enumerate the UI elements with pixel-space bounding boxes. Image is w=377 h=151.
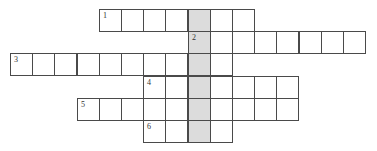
crossword-cell[interactable]: 1	[99, 9, 122, 32]
crossword-cell[interactable]	[99, 98, 122, 121]
crossword-cell[interactable]	[188, 120, 211, 143]
crossword-cell[interactable]: 3	[10, 53, 33, 76]
crossword-cell[interactable]	[210, 53, 233, 76]
crossword-cell[interactable]	[299, 31, 322, 54]
clue-number: 3	[14, 56, 18, 64]
crossword-grid: 123456	[0, 0, 377, 151]
crossword-cell[interactable]	[121, 53, 144, 76]
crossword-cell[interactable]	[54, 53, 77, 76]
crossword-cell[interactable]	[343, 31, 366, 54]
crossword-cell[interactable]	[210, 31, 233, 54]
crossword-cell[interactable]	[188, 53, 211, 76]
crossword-cell[interactable]	[276, 76, 299, 99]
crossword-cell[interactable]	[232, 9, 255, 32]
crossword-cell[interactable]	[188, 76, 211, 99]
crossword-cell[interactable]	[210, 120, 233, 143]
crossword-cell[interactable]	[254, 31, 277, 54]
crossword-cell[interactable]: 4	[143, 76, 166, 99]
crossword-cell[interactable]	[210, 76, 233, 99]
crossword-cell[interactable]	[232, 31, 255, 54]
crossword-cell[interactable]	[321, 31, 344, 54]
crossword-cell[interactable]	[165, 53, 188, 76]
crossword-cell[interactable]	[276, 98, 299, 121]
clue-number: 5	[81, 101, 85, 109]
crossword-cell[interactable]	[276, 31, 299, 54]
crossword-cell[interactable]	[254, 98, 277, 121]
crossword-cell[interactable]: 5	[77, 98, 100, 121]
crossword-cell[interactable]	[99, 53, 122, 76]
crossword-cell[interactable]	[165, 9, 188, 32]
crossword-cell[interactable]	[121, 9, 144, 32]
crossword-cell[interactable]	[254, 76, 277, 99]
crossword-cell[interactable]	[77, 53, 100, 76]
crossword-cell[interactable]	[165, 120, 188, 143]
crossword-cell[interactable]: 6	[143, 120, 166, 143]
clue-number: 2	[192, 34, 196, 42]
crossword-cell[interactable]	[143, 98, 166, 121]
crossword-cell[interactable]	[165, 98, 188, 121]
crossword-cell[interactable]: 2	[188, 31, 211, 54]
crossword-cell[interactable]	[210, 98, 233, 121]
crossword-cell[interactable]	[232, 76, 255, 99]
clue-number: 4	[147, 79, 151, 87]
crossword-cell[interactable]	[143, 53, 166, 76]
crossword-cell[interactable]	[232, 98, 255, 121]
clue-number: 6	[147, 123, 151, 131]
crossword-cell[interactable]	[121, 98, 144, 121]
crossword-cell[interactable]	[188, 98, 211, 121]
crossword-cell[interactable]	[32, 53, 55, 76]
clue-number: 1	[103, 12, 107, 20]
crossword-cell[interactable]	[188, 9, 211, 32]
crossword-cell[interactable]	[165, 76, 188, 99]
crossword-cell[interactable]	[210, 9, 233, 32]
crossword-cell[interactable]	[143, 9, 166, 32]
